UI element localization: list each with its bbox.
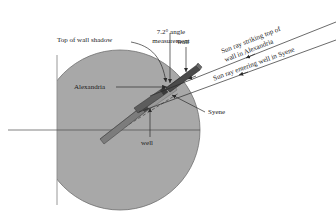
angle-measurement-line1: 7.2° angle measurement bbox=[142, 28, 200, 45]
angle-measurement-label: 7.2° angle measurement bbox=[142, 11, 200, 62]
eratosthenes-diagram: 7.2° angle measurement Top of wall shado… bbox=[0, 0, 336, 223]
alexandria-label: Alexandria bbox=[74, 83, 105, 92]
well-label: well bbox=[141, 139, 153, 148]
wall-label: wall bbox=[177, 38, 189, 47]
syene-label: Syene bbox=[208, 108, 225, 117]
top-of-wall-shadow-label: Top of wall shadow bbox=[57, 36, 112, 45]
